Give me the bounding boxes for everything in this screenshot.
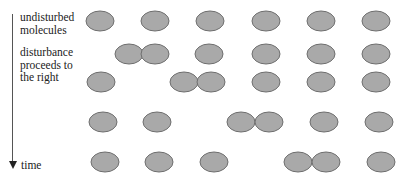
molecule-row-5 <box>91 152 395 172</box>
molecule <box>362 72 390 92</box>
molecule <box>252 44 280 64</box>
molecule <box>86 11 114 31</box>
molecule <box>310 112 338 132</box>
molecule <box>365 112 393 132</box>
molecule <box>307 44 335 64</box>
molecule <box>252 11 280 31</box>
molecule <box>197 72 225 92</box>
molecule-row-1 <box>86 11 390 31</box>
molecule <box>91 152 119 172</box>
molecule <box>200 152 228 172</box>
molecule <box>145 152 173 172</box>
molecule-row-3 <box>87 72 390 92</box>
molecule <box>307 11 335 31</box>
molecule <box>362 44 390 64</box>
molecule <box>255 112 283 132</box>
molecule <box>195 44 223 64</box>
molecule <box>141 11 169 31</box>
molecule <box>367 152 395 172</box>
molecule <box>87 72 115 92</box>
molecule <box>115 44 143 64</box>
molecule <box>227 112 255 132</box>
molecule-row-2 <box>115 44 390 64</box>
molecule <box>170 72 198 92</box>
molecule <box>312 152 340 172</box>
molecule <box>196 11 224 31</box>
molecule <box>141 44 169 64</box>
molecule <box>252 72 280 92</box>
molecule <box>143 112 171 132</box>
molecule <box>284 152 312 172</box>
molecule <box>307 72 335 92</box>
molecule-row-4 <box>89 112 393 132</box>
molecule <box>89 112 117 132</box>
molecule <box>362 11 390 31</box>
molecule-grid <box>0 0 402 185</box>
